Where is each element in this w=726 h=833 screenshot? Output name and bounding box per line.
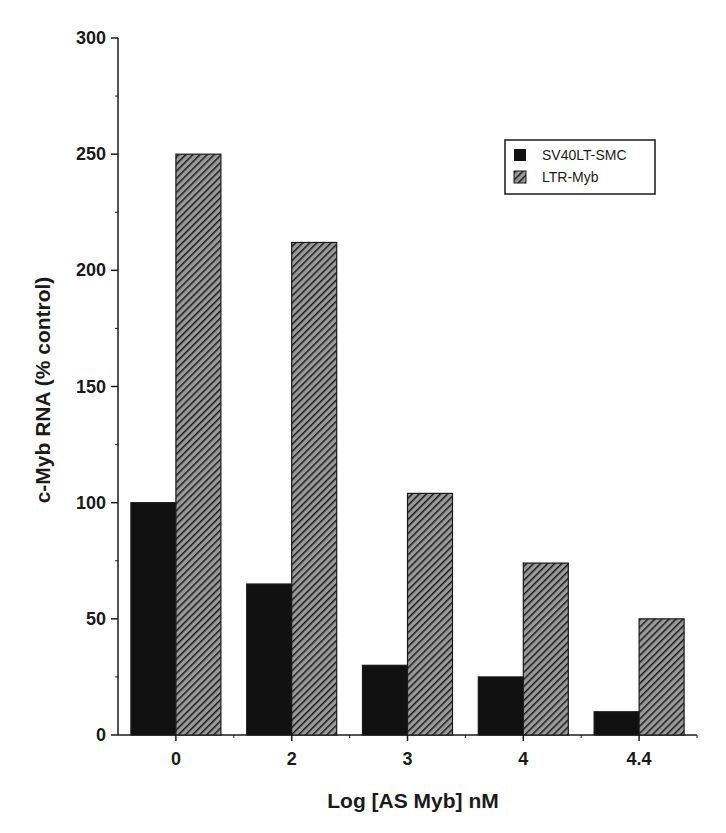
x-tick-label: 4 — [518, 749, 528, 769]
x-tick-label: 0 — [171, 749, 181, 769]
bar-ltr-myb-3 — [408, 493, 453, 735]
bar-ltr-myb-2 — [292, 242, 337, 735]
bars — [131, 154, 684, 735]
legend-label-ltr-myb: LTR-Myb — [542, 169, 599, 185]
bar-chart: 050100150200250300 02344.4 c-Myb RNA (% … — [0, 0, 726, 833]
bar-ltr-myb-4.4 — [639, 619, 684, 735]
legend-label-sv40lt-smc: SV40LT-SMC — [542, 147, 627, 163]
y-tick-label: 300 — [76, 28, 106, 48]
bar-sv40lt-smc-4 — [478, 677, 523, 735]
bar-ltr-myb-0 — [176, 154, 221, 735]
y-tick-label: 50 — [86, 609, 106, 629]
y-tick-label: 200 — [76, 260, 106, 280]
bar-sv40lt-smc-2 — [247, 584, 292, 735]
bar-sv40lt-smc-3 — [363, 665, 408, 735]
x-axis: 02344.4 — [118, 735, 697, 769]
y-tick-label: 0 — [96, 725, 106, 745]
y-axis: 050100150200250300 — [76, 28, 118, 745]
bar-sv40lt-smc-0 — [131, 503, 176, 735]
x-tick-label: 2 — [287, 749, 297, 769]
legend: SV40LT-SMC LTR-Myb — [505, 140, 655, 194]
bar-sv40lt-smc-4.4 — [594, 712, 639, 735]
y-tick-label: 250 — [76, 144, 106, 164]
bar-ltr-myb-4 — [523, 563, 568, 735]
legend-swatch-hatched-icon — [514, 171, 526, 183]
y-tick-label: 100 — [76, 493, 106, 513]
x-tick-label: 3 — [402, 749, 412, 769]
x-axis-title: Log [AS Myb] nM — [327, 789, 498, 812]
x-tick-label: 4.4 — [627, 749, 652, 769]
legend-swatch-solid-icon — [514, 149, 526, 161]
y-axis-title: c-Myb RNA (% control) — [31, 277, 54, 504]
y-tick-label: 150 — [76, 377, 106, 397]
